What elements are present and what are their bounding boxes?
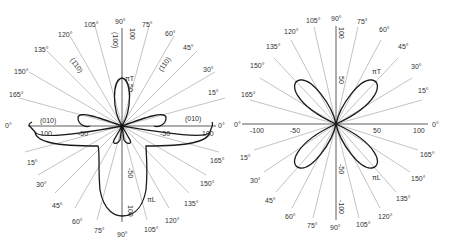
svg-text:75°: 75° xyxy=(357,18,368,25)
svg-text:150°: 150° xyxy=(250,62,265,69)
svg-text:75°: 75° xyxy=(94,227,105,234)
svg-text:90°: 90° xyxy=(331,15,342,22)
svg-text:100: 100 xyxy=(338,27,345,39)
svg-text:150°: 150° xyxy=(411,175,426,182)
svg-text:60°: 60° xyxy=(285,213,296,220)
svg-text:45°: 45° xyxy=(398,43,409,50)
svg-text:165°: 165° xyxy=(9,91,24,98)
svg-text:(010): (010) xyxy=(185,115,201,123)
svg-text:100: 100 xyxy=(413,127,425,134)
svg-text:165°: 165° xyxy=(420,151,435,158)
svg-text:-100: -100 xyxy=(38,130,52,137)
svg-text:165°: 165° xyxy=(241,91,256,98)
svg-text:120°: 120° xyxy=(165,217,180,224)
svg-text:100: 100 xyxy=(129,28,136,40)
svg-text:120°: 120° xyxy=(58,31,73,38)
svg-text:105°: 105° xyxy=(356,221,371,228)
svg-text:135°: 135° xyxy=(396,195,411,202)
direction-labels: (010) (010) (100) (1̄10) (110) πT πL xyxy=(40,32,201,203)
svg-text:100: 100 xyxy=(127,205,134,217)
svg-text:πL: πL xyxy=(147,196,156,203)
svg-text:120°: 120° xyxy=(378,213,393,220)
svg-text:105°: 105° xyxy=(144,226,159,233)
svg-text:150°: 150° xyxy=(14,68,29,75)
svg-text:90°: 90° xyxy=(117,231,128,238)
svg-text:15°: 15° xyxy=(240,154,251,161)
svg-text:(100): (100) xyxy=(111,32,119,48)
svg-text:πL: πL xyxy=(372,174,381,181)
svg-text:90°: 90° xyxy=(115,18,126,25)
svg-text:30°: 30° xyxy=(411,63,422,70)
svg-text:120°: 120° xyxy=(284,28,299,35)
svg-text:15°: 15° xyxy=(208,89,219,96)
svg-text:45°: 45° xyxy=(183,44,194,51)
svg-text:πT: πT xyxy=(125,75,135,82)
svg-text:πT: πT xyxy=(372,68,382,75)
svg-text:150°: 150° xyxy=(200,180,215,187)
svg-text:-50: -50 xyxy=(78,130,88,137)
svg-text:(1̄10): (1̄10) xyxy=(68,57,84,75)
svg-text:105°: 105° xyxy=(306,17,321,24)
svg-text:30°: 30° xyxy=(203,66,214,73)
svg-text:100: 100 xyxy=(202,130,214,137)
svg-text:-50: -50 xyxy=(160,130,170,137)
svg-text:60°: 60° xyxy=(72,218,83,225)
svg-text:135°: 135° xyxy=(34,46,49,53)
piezoresistance-polar-diagrams: 0° 165° 150° 135° 120° 105° 90° 75° 60° … xyxy=(0,0,454,252)
svg-text:75°: 75° xyxy=(142,21,153,28)
origin-point xyxy=(120,124,124,128)
right-polar-diagram: 0° 165° 150° 135° 120° 105° 90° 75° 60° … xyxy=(234,15,439,231)
left-polar-diagram: 0° 165° 150° 135° 120° 105° 90° 75° 60° … xyxy=(5,18,225,238)
svg-text:60°: 60° xyxy=(379,26,390,33)
svg-text:-100: -100 xyxy=(338,200,345,214)
svg-text:-100: -100 xyxy=(250,127,264,134)
svg-text:50: 50 xyxy=(338,76,345,84)
svg-text:0°: 0° xyxy=(218,122,225,129)
svg-text:45°: 45° xyxy=(52,202,63,209)
svg-text:0°: 0° xyxy=(234,121,241,128)
svg-text:0°: 0° xyxy=(432,121,439,128)
svg-text:165°: 165° xyxy=(210,157,225,164)
svg-text:15°: 15° xyxy=(418,87,429,94)
svg-text:50: 50 xyxy=(127,84,134,92)
svg-text:0°: 0° xyxy=(5,122,12,129)
svg-text:30°: 30° xyxy=(250,177,261,184)
svg-text:105°: 105° xyxy=(84,21,99,28)
svg-text:135°: 135° xyxy=(184,200,199,207)
svg-text:60°: 60° xyxy=(165,30,176,37)
svg-text:(010): (010) xyxy=(40,117,56,125)
svg-text:30°: 30° xyxy=(36,181,47,188)
svg-text:(110): (110) xyxy=(157,56,173,74)
svg-text:45°: 45° xyxy=(265,197,276,204)
svg-text:15°: 15° xyxy=(27,159,38,166)
svg-text:90°: 90° xyxy=(330,224,341,231)
svg-text:135°: 135° xyxy=(266,43,281,50)
svg-text:50: 50 xyxy=(373,127,381,134)
svg-text:-50: -50 xyxy=(290,127,300,134)
svg-text:75°: 75° xyxy=(307,222,318,229)
svg-text:-50: -50 xyxy=(338,164,345,174)
svg-text:-50: -50 xyxy=(127,168,134,178)
